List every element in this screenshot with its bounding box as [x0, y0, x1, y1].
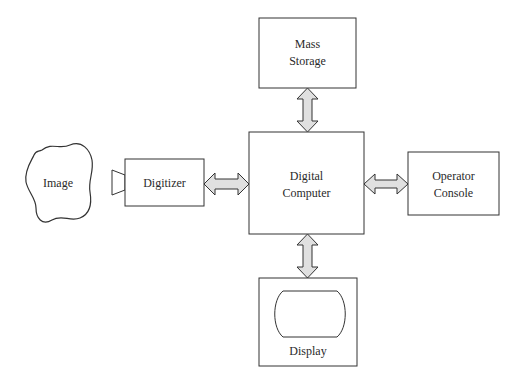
image-label: Image [43, 176, 73, 190]
storage-node: Mass Storage [259, 18, 356, 88]
digitizer-node: Digitizer [112, 159, 204, 206]
digitizer-label: Digitizer [143, 176, 186, 190]
computer-label-line2: Computer [283, 186, 331, 200]
double-arrow-digitizer-computer [204, 173, 249, 195]
display-label: Display [289, 344, 326, 358]
storage-box [259, 18, 356, 88]
double-arrow-storage-computer [297, 88, 318, 132]
computer-label-line1: Digital [290, 169, 324, 183]
image-node: Image [26, 144, 93, 222]
computer-node: Digital Computer [249, 132, 364, 234]
display-screen-icon [275, 291, 346, 337]
diagram-canvas: Image Digitizer Digital Computer Mass St… [0, 0, 523, 385]
console-box [408, 152, 499, 215]
computer-box [249, 132, 364, 234]
double-arrow-computer-display [297, 234, 318, 278]
display-node: Display [259, 278, 357, 366]
console-label-line1: Operator [432, 169, 475, 183]
storage-label-line1: Mass [295, 37, 321, 51]
camera-lens-icon [112, 170, 125, 195]
double-arrow-computer-console [364, 174, 408, 194]
storage-label-line2: Storage [289, 54, 326, 68]
console-label-line2: Console [434, 186, 473, 200]
console-node: Operator Console [408, 152, 499, 215]
